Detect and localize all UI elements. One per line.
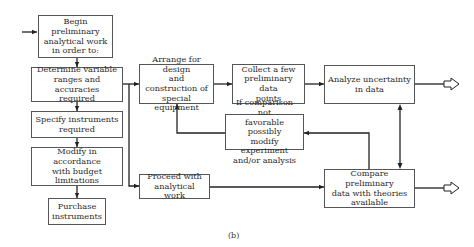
box-analyze-uncertainty: Analyze uncertainty in data [324, 65, 415, 104]
box-specify-instruments: Specify instruments required [31, 111, 123, 138]
box-begin-preliminary-work: Begin preliminary analytical work in ord… [38, 15, 113, 58]
box-if-comparison: If comparison not favorable possibly mod… [225, 114, 304, 150]
box-compare-theories: Compare preliminary data with theories a… [324, 169, 415, 208]
box-determine-ranges: Determine variable ranges and accuracies… [31, 67, 123, 102]
box-purchase-instruments: Purchase instruments [48, 198, 106, 225]
box-proceed-analytical: Proceed with analytical work [139, 174, 210, 199]
box-arrange-equipment: Arrange for design and construction of s… [139, 64, 214, 104]
box-modify-budget: Modify in accordance with budget limitat… [31, 147, 123, 186]
figure-caption: (b) [228, 231, 239, 240]
